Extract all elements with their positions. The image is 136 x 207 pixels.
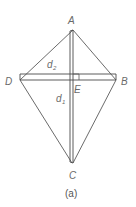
- diagonal-d1: [70, 30, 73, 163]
- edge-AB: [73, 30, 116, 80]
- diagonal-subscript-d1: 1: [62, 99, 65, 105]
- diagonal-d2: [20, 74, 116, 80]
- vertex-label-D: D: [5, 76, 12, 87]
- diagonal-subscript-d2: 2: [52, 65, 57, 71]
- intersection-label-E: E: [74, 84, 81, 95]
- vertex-label-C: C: [69, 170, 77, 181]
- vertex-label-B: B: [121, 76, 128, 87]
- kite-diagram: A D B C E d 2 d 1 (a): [0, 0, 136, 207]
- edge-DC: [20, 80, 72, 163]
- edge-AD: [20, 30, 73, 80]
- right-angle-marker: [73, 74, 79, 80]
- vertex-label-A: A: [67, 15, 75, 26]
- figure-caption: (a): [65, 188, 77, 199]
